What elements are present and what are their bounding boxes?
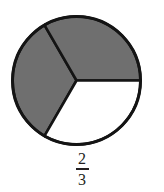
fraction-stack: 2 3 xyxy=(76,150,89,188)
fraction-pie-figure: 2 3 xyxy=(0,0,164,192)
fraction-denominator: 3 xyxy=(76,171,89,188)
fraction-label: 2 3 xyxy=(0,150,164,188)
fraction-numerator: 2 xyxy=(76,150,89,167)
fraction-bar xyxy=(76,168,89,170)
